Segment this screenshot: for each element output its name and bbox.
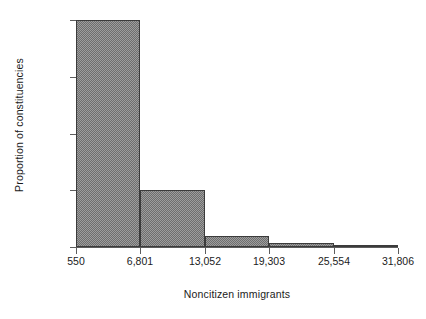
x-axis-tick-mark [398, 248, 399, 254]
x-axis-tick-mark [140, 248, 141, 254]
x-axis-tick-mark [76, 248, 77, 254]
histogram-bar [205, 236, 269, 247]
x-axis-label: Noncitizen immigrants [76, 288, 398, 300]
x-axis-tick-label: 19,303 [253, 256, 285, 267]
x-axis-tick-mark [269, 248, 270, 254]
histogram-bar [334, 245, 398, 247]
x-axis-tick-label: 6,801 [127, 256, 153, 267]
x-axis-tick-labels: 5506,80113,05219,30325,55431,806 [0, 256, 426, 276]
histogram-bar [140, 190, 204, 247]
histogram-bar [269, 243, 333, 247]
x-axis-tick-label: 25,554 [318, 256, 350, 267]
x-axis-tick-label: 550 [67, 256, 85, 267]
x-axis-tick-mark [334, 248, 335, 254]
histogram-bar [76, 20, 140, 247]
x-axis-line [76, 247, 398, 248]
plot-area [76, 20, 398, 247]
x-axis-tick-label: 31,806 [382, 256, 414, 267]
histogram-figure: Proportion of constituencies 0.00.728 55… [0, 0, 426, 319]
x-axis-tick-label: 13,052 [189, 256, 221, 267]
x-axis-tick-mark [205, 248, 206, 254]
